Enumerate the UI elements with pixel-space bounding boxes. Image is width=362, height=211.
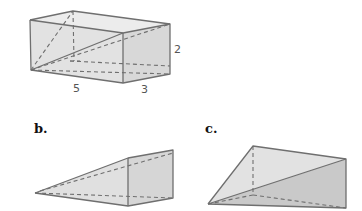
dimension-width: 3 — [141, 83, 148, 96]
dimension-height: 2 — [174, 43, 181, 56]
figure-b-wedge: b. — [34, 121, 173, 206]
figure-c-label: c. — [205, 121, 217, 136]
figure-c-pyramid: c. — [205, 121, 346, 208]
dimension-length: 5 — [73, 82, 80, 95]
prism-right-face — [123, 24, 170, 83]
figure-a-prism: 5 3 2 — [30, 11, 181, 96]
wedge-front-face — [35, 158, 128, 206]
figure-b-label: b. — [34, 121, 48, 136]
geometry-diagram: 5 3 2 b. c. — [0, 0, 362, 211]
